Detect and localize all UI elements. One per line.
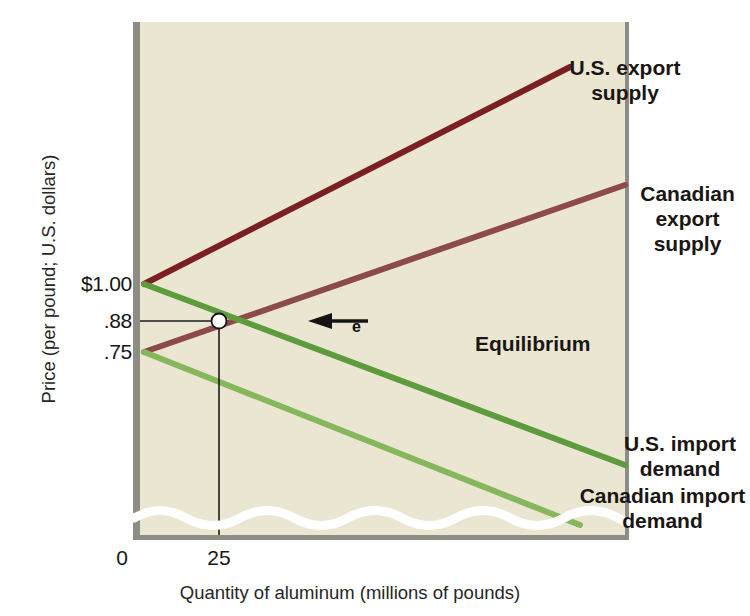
series-line-us-import-demand — [144, 284, 625, 465]
plot-panel: e Equilibrium U.S. export supply Canadia… — [140, 22, 625, 535]
equilibrium-point-label: e — [352, 318, 361, 336]
annotation-canadian-export-supply-line2: export — [595, 207, 750, 232]
annotation-canadian-export-supply-line1: Canadian — [595, 182, 750, 207]
annotation-equilibrium: Equilibrium — [475, 332, 591, 357]
annotation-canadian-export-supply: Canadian export supply — [595, 182, 750, 256]
x-axis-tick-label-0: 0 — [102, 546, 142, 570]
equilibrium-point-marker — [212, 314, 227, 329]
annotation-canadian-export-supply-line3: supply — [595, 232, 750, 257]
annotation-us-import-demand-line1: U.S. import — [580, 432, 750, 457]
annotation-canadian-import-demand: Canadian import demand — [545, 484, 750, 534]
annotation-canadian-import-demand-line2: demand — [545, 509, 750, 534]
y-axis-title: Price (per pound; U.S. dollars) — [38, 114, 60, 444]
annotation-us-export-supply-line2: supply — [530, 81, 720, 106]
series-line-canadian-import-demand — [144, 352, 580, 525]
series-line-us-export-supply — [144, 67, 570, 284]
x-axis-title: Quantity of aluminum (millions of pounds… — [100, 582, 600, 604]
annotation-canadian-import-demand-line1: Canadian import — [545, 484, 750, 509]
annotation-us-export-supply-line1: U.S. export — [530, 56, 720, 81]
annotation-us-export-supply: U.S. export supply — [530, 56, 720, 106]
annotation-us-import-demand-line2: demand — [580, 457, 750, 482]
x-axis-tick-label-25: 25 — [196, 546, 242, 570]
annotation-us-import-demand: U.S. import demand — [580, 432, 750, 482]
